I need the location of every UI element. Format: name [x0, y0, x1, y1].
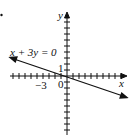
x-axis-label: x: [119, 78, 124, 89]
y-axis: [65, 12, 70, 135]
y-axis-label: y: [58, 10, 63, 21]
coordinate-graph: [0, 0, 129, 137]
tick-label-y-1: 1: [58, 63, 64, 74]
tick-label-x-neg3: −3: [35, 80, 47, 91]
equation-label: x + 3y = 0: [10, 47, 57, 58]
bullet-dot: [0, 14, 2, 16]
origin-label: 0: [58, 79, 64, 90]
